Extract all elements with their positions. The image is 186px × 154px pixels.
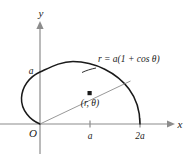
point-marker — [88, 91, 92, 95]
origin-label: O — [29, 127, 37, 139]
x-tick-label-2a: 2a — [135, 131, 145, 141]
y-axis-label: y — [38, 7, 44, 19]
point-coordinate-label: (r, θ) — [81, 98, 99, 109]
curve-equation-label: r = a(1 + cos θ) — [98, 54, 160, 65]
y-tick-label-a: a — [29, 66, 34, 76]
figure-canvas: y x O a a 2a r = a(1 + cos θ) (r, θ) — [0, 0, 186, 154]
x-tick-label-a: a — [88, 131, 93, 141]
x-axis-label: x — [177, 118, 183, 130]
y-axis-arrowhead — [36, 21, 43, 29]
equation-leader-line — [82, 68, 96, 73]
cardioid-curve — [21, 62, 140, 125]
cardioid-figure: y x O a a 2a r = a(1 + cos θ) (r, θ) — [0, 0, 186, 154]
x-axis-arrowhead — [167, 120, 175, 127]
